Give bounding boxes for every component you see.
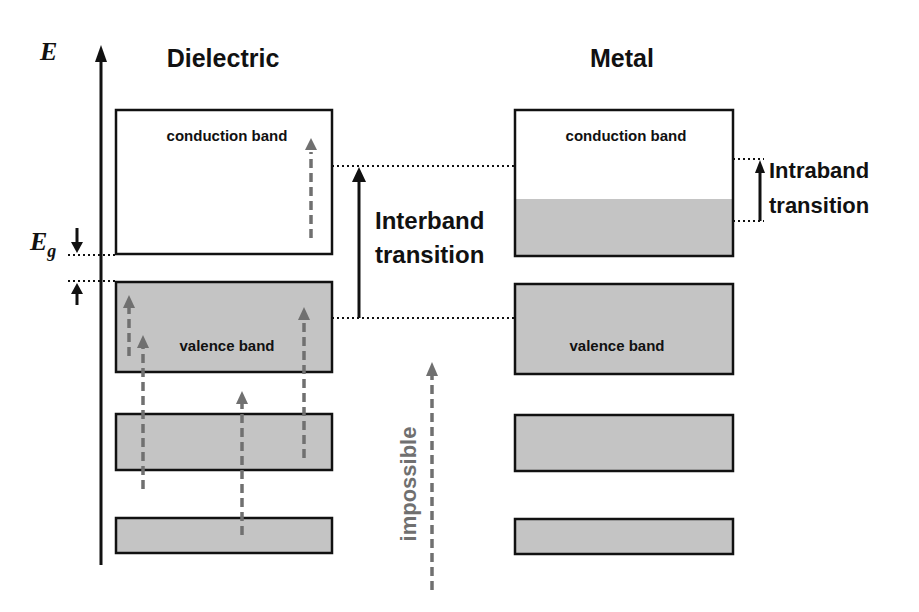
metal-lower-band-2 (515, 519, 733, 554)
metal-conduction-label: conduction band (566, 127, 687, 144)
metal-valence-label: valence band (569, 337, 664, 354)
band-gap-marker (68, 228, 116, 305)
dielectric-lower-band-2 (116, 518, 332, 553)
interband-label-line1: Interband (375, 207, 484, 234)
metal-filled-states (515, 199, 733, 256)
intraband-label-line1: Intraband (769, 158, 869, 183)
band-diagram: E Dielectric Metal conduction band valen… (0, 0, 919, 612)
energy-axis-label: E (39, 37, 57, 66)
intraband-transition-marker (733, 159, 765, 221)
dielectric-valence-band (116, 282, 332, 372)
metal-valence-band (515, 284, 733, 374)
dielectric-valence-label: valence band (179, 337, 274, 354)
interband-label-line2: transition (375, 241, 484, 268)
impossible-arrow (426, 362, 438, 590)
impossible-label: impossible (396, 427, 421, 542)
dielectric-title: Dielectric (167, 44, 280, 72)
band-gap-label: Eg (29, 227, 56, 261)
intraband-label-line2: transition (769, 193, 869, 218)
dielectric-conduction-label: conduction band (167, 127, 288, 144)
energy-axis (95, 45, 107, 565)
metal-title: Metal (590, 44, 654, 72)
dielectric-lower-band-1 (116, 414, 332, 470)
metal-lower-band-1 (515, 415, 733, 471)
